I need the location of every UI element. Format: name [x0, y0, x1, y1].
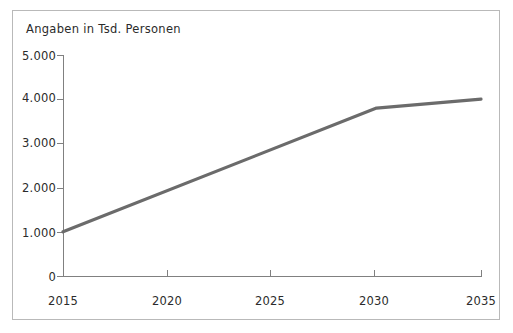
y-axis-ticks	[57, 56, 63, 277]
plot-area	[0, 0, 513, 333]
chart-figure: Angaben in Tsd. Personen 5.000 4.000 3.0…	[0, 0, 513, 333]
x-axis-ticks	[64, 270, 482, 276]
data-line-personen	[63, 99, 481, 232]
